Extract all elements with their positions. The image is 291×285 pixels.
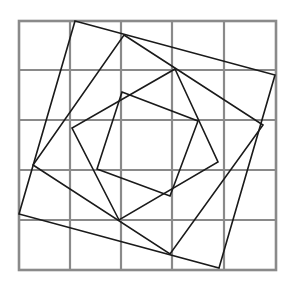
nested-squares-diagram <box>0 0 291 285</box>
square-inner <box>97 92 198 196</box>
square-second <box>33 35 263 254</box>
square-third <box>72 69 218 220</box>
grid <box>19 21 276 270</box>
grid-border <box>19 21 276 270</box>
nested-squares <box>19 21 275 268</box>
square-outer <box>19 21 275 268</box>
